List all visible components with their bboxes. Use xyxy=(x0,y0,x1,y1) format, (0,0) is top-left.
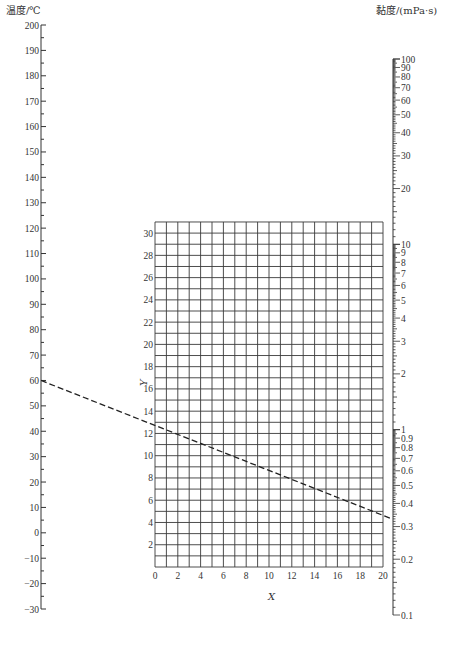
y-tick-label: 4 xyxy=(148,518,153,528)
y-tick-label: 26 xyxy=(144,273,154,283)
y-tick-label: 28 xyxy=(144,251,154,261)
viscosity-tick-label: 60 xyxy=(401,96,411,106)
temperature-tick-label: −10 xyxy=(24,554,39,564)
temperature-tick-label: 190 xyxy=(25,46,40,56)
x-tick-label: 2 xyxy=(175,571,180,581)
temperature-tick-label: 160 xyxy=(25,122,40,132)
y-tick-label: 14 xyxy=(144,407,154,417)
viscosity-tick-label: 3 xyxy=(401,337,406,347)
y-tick-label: 20 xyxy=(144,340,154,350)
viscosity-tick-label: 0.8 xyxy=(401,443,413,453)
temperature-tick-label: 50 xyxy=(30,401,40,411)
temperature-tick-label: 70 xyxy=(30,351,40,361)
temperature-tick-label: 20 xyxy=(30,478,40,488)
reference-dashed-line xyxy=(41,380,392,518)
temperature-tick-label: 170 xyxy=(25,97,40,107)
temperature-tick-label: 80 xyxy=(30,325,40,335)
y-tick-label: 8 xyxy=(148,473,153,483)
y-tick-label: 12 xyxy=(144,429,154,439)
x-tick-label: 12 xyxy=(287,571,297,581)
viscosity-tick-label: 8 xyxy=(401,258,406,268)
temperature-axis: 2001901801701601501401301201101009080706… xyxy=(24,21,46,615)
viscosity-tick-label: 4 xyxy=(401,314,406,324)
viscosity-tick-label: 80 xyxy=(401,72,411,82)
xy-grid xyxy=(155,222,383,567)
temperature-tick-label: 150 xyxy=(25,147,40,157)
temperature-tick-label: 120 xyxy=(25,224,40,234)
temperature-tick-label: 0 xyxy=(34,528,39,538)
y-tick-label: 24 xyxy=(144,295,154,305)
viscosity-tick-label: 0.4 xyxy=(401,499,413,509)
x-tick-label: 4 xyxy=(198,571,203,581)
temperature-tick-label: 180 xyxy=(25,71,40,81)
y-tick-label: 10 xyxy=(144,451,154,461)
x-tick-label: 10 xyxy=(264,571,274,581)
viscosity-tick-label: 7 xyxy=(401,269,406,279)
temperature-axis-title: 温度/℃ xyxy=(6,4,41,16)
temperature-tick-label: 60 xyxy=(30,376,40,386)
temperature-tick-label: 40 xyxy=(30,427,40,437)
viscosity-tick-label: 70 xyxy=(401,83,411,93)
y-tick-label: 6 xyxy=(148,496,153,506)
y-tick-label: 2 xyxy=(148,540,153,550)
x-tick-label: 6 xyxy=(221,571,226,581)
viscosity-tick-label: 40 xyxy=(401,128,411,138)
x-tick-label: 20 xyxy=(378,571,388,581)
x-axis-title: X xyxy=(267,591,276,602)
y-tick-label: 18 xyxy=(144,362,154,372)
temperature-tick-label: 10 xyxy=(30,503,40,513)
x-tick-label: 8 xyxy=(244,571,249,581)
viscosity-tick-label: 0.1 xyxy=(401,611,413,621)
temperature-tick-label: 100 xyxy=(25,274,40,284)
temperature-tick-label: −30 xyxy=(24,605,39,615)
viscosity-tick-label: 0.3 xyxy=(401,522,413,532)
temperature-tick-label: 110 xyxy=(25,249,39,259)
y-tick-label: 22 xyxy=(144,318,154,328)
viscosity-axis: 1009080706050403020109876543210.90.80.70… xyxy=(393,55,416,621)
viscosity-tick-label: 0.7 xyxy=(401,454,413,464)
viscosity-tick-label: 0.5 xyxy=(401,481,413,491)
viscosity-tick-label: 5 xyxy=(401,296,406,306)
y-tick-label: 30 xyxy=(144,229,154,239)
viscosity-tick-label: 6 xyxy=(401,281,406,291)
x-tick-label: 14 xyxy=(310,571,320,581)
nomogram-chart: 温度/℃ 黏度/(mPa·s) 200190180170160150140130… xyxy=(0,0,451,650)
temperature-tick-label: 130 xyxy=(25,198,40,208)
viscosity-tick-label: 20 xyxy=(401,184,411,194)
viscosity-tick-label: 30 xyxy=(401,151,411,161)
x-tick-label: 18 xyxy=(355,571,365,581)
temperature-tick-label: −20 xyxy=(24,579,39,589)
temperature-tick-label: 200 xyxy=(25,21,40,31)
viscosity-tick-label: 2 xyxy=(401,369,406,379)
temperature-tick-label: 30 xyxy=(30,452,40,462)
y-axis-title: Y xyxy=(138,378,149,386)
temperature-tick-label: 140 xyxy=(25,173,40,183)
viscosity-tick-label: 50 xyxy=(401,110,411,120)
grid-tick-labels: 0246810121416182024681012141618202224262… xyxy=(144,229,389,581)
temperature-tick-label: 90 xyxy=(30,300,40,310)
x-tick-label: 16 xyxy=(333,571,343,581)
viscosity-tick-label: 0.6 xyxy=(401,466,413,476)
viscosity-tick-label: 0.2 xyxy=(401,555,413,565)
viscosity-axis-title: 黏度/(mPa·s) xyxy=(376,4,437,16)
x-tick-label: 0 xyxy=(153,571,158,581)
